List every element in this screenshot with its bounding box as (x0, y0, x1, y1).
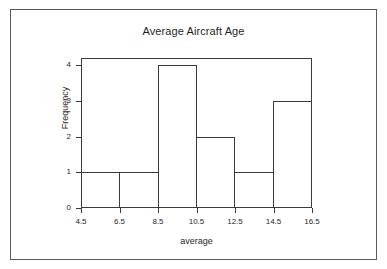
x-axis-tick (274, 208, 275, 213)
histogram-bar (234, 172, 273, 208)
histogram-bars (81, 58, 312, 208)
x-axis-tick (81, 208, 82, 213)
histogram-bar (81, 172, 120, 208)
histogram-figure: Average Aircraft Age average Frequency 0… (0, 0, 387, 269)
y-axis-tick-label: 3 (49, 97, 71, 105)
y-axis-tick-label: 2 (49, 133, 71, 141)
x-axis-tick-label: 6.5 (103, 217, 137, 226)
x-axis-tick (197, 208, 198, 213)
y-axis-tick (76, 101, 81, 102)
x-axis-tick-label: 16.5 (295, 217, 329, 226)
chart-title: Average Aircraft Age (0, 25, 387, 37)
histogram-bar (273, 101, 312, 208)
histogram-bar (196, 137, 235, 208)
x-axis-tick (235, 208, 236, 213)
y-axis-tick (76, 172, 81, 173)
y-axis-tick (76, 65, 81, 66)
x-axis-tick-label: 14.5 (257, 217, 291, 226)
x-axis-tick-label: 4.5 (64, 217, 98, 226)
x-axis-tick (120, 208, 121, 213)
x-axis-tick (312, 208, 313, 213)
x-axis-tick-label: 10.5 (180, 217, 214, 226)
x-axis-title: average (81, 236, 312, 246)
y-axis-tick-label: 4 (49, 61, 71, 69)
y-axis-tick (76, 137, 81, 138)
histogram-bar (158, 65, 197, 208)
x-axis-tick (158, 208, 159, 213)
y-axis-tick-label: 0 (49, 204, 71, 212)
x-axis-tick-label: 12.5 (218, 217, 252, 226)
histogram-bar (119, 172, 158, 208)
y-axis-tick-label: 1 (49, 168, 71, 176)
x-axis-tick-label: 8.5 (141, 217, 175, 226)
y-axis-title: Frequency (60, 77, 70, 139)
